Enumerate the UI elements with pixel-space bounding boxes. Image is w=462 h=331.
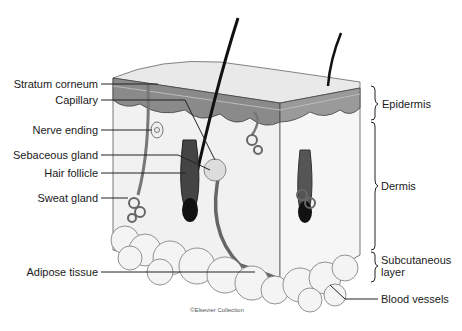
- label-dermis: Dermis: [381, 180, 416, 192]
- label-sebaceous-gland: Sebaceous gland: [13, 149, 98, 161]
- label-hair-follicle: Hair follicle: [44, 167, 98, 179]
- label-adipose-tissue: Adipose tissue: [26, 266, 98, 278]
- skin-illustration: [0, 0, 462, 331]
- label-layer: layer: [381, 266, 405, 278]
- label-stratum-corneum: Stratum corneum: [14, 78, 98, 90]
- label-epidermis: Epidermis: [382, 98, 431, 110]
- label-blood-vessels: Blood vessels: [381, 293, 449, 305]
- label-nerve-ending: Nerve ending: [33, 124, 98, 136]
- label-sweat-gland: Sweat gland: [37, 192, 98, 204]
- label-capillary: Capillary: [55, 94, 98, 106]
- label-subcutaneous: Subcutaneous: [381, 254, 451, 266]
- copyright-credit: ©Elsevier Collection: [190, 307, 244, 313]
